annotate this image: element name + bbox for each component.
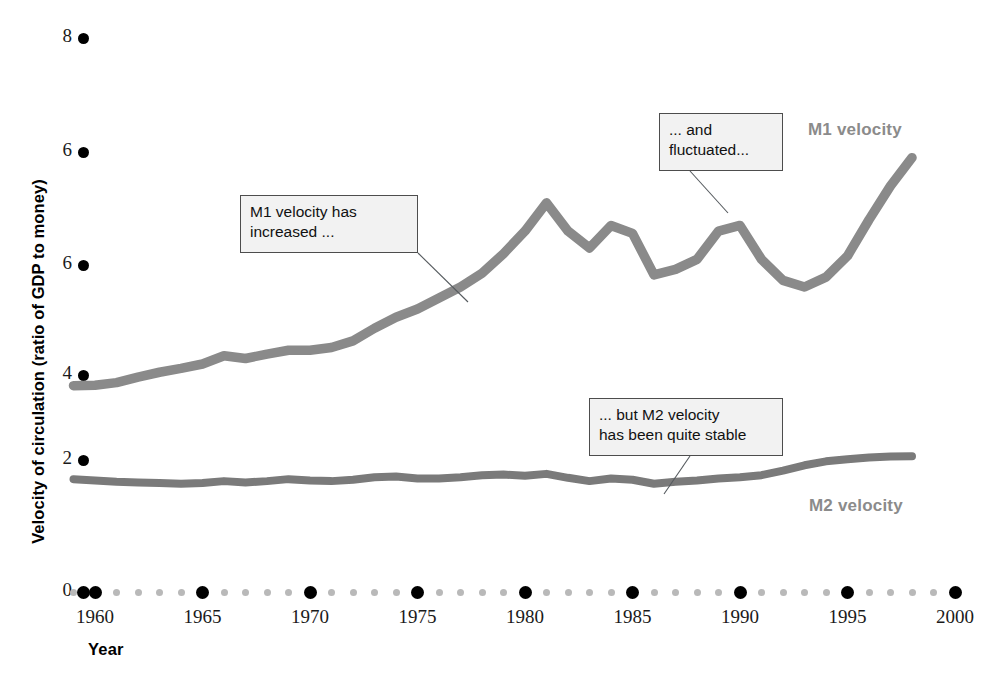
origin-dot (77, 586, 90, 599)
x-axis-title: Year (88, 640, 124, 659)
x-axis-minor-dot (823, 589, 830, 596)
x-axis-minor-dot (479, 589, 486, 596)
series-group (74, 158, 913, 484)
x-axis-minor-dot (350, 589, 357, 596)
x-axis-major-dot (411, 586, 424, 599)
x-axis-major-dot (196, 586, 209, 599)
x-axis-minor-dot (586, 589, 593, 596)
plot-area (0, 0, 991, 684)
x-axis-minor-dot (694, 589, 701, 596)
x-axis-major-dot (841, 586, 854, 599)
leader-line-m2-stable (664, 456, 690, 494)
series-line-m1-velocity (74, 158, 913, 386)
x-tick-label: 2000 (920, 606, 990, 628)
x-axis-minor-dot (543, 589, 550, 596)
x-axis-minor-dot (221, 589, 228, 596)
x-axis-minor-dot (715, 589, 722, 596)
leader-line-m1-fluctuated (690, 171, 728, 213)
x-tick-label: 1970 (275, 606, 345, 628)
x-axis-minor-dot (672, 589, 679, 596)
x-axis-major-dot (949, 586, 962, 599)
x-axis-minor-dot (156, 589, 163, 596)
x-axis-major-dot (304, 586, 317, 599)
series-line-m2-velocity (74, 456, 913, 484)
x-axis-major-dot (519, 586, 532, 599)
x-axis-minor-dot (436, 589, 443, 596)
x-axis-minor-dot (242, 589, 249, 596)
x-axis-minor-dot (371, 589, 378, 596)
x-axis-minor-dot (393, 589, 400, 596)
chart-figure: Velocity of circulation (ratio of GDP to… (0, 0, 991, 684)
x-axis-minor-dot (780, 589, 787, 596)
x-axis-minor-dot (801, 589, 808, 596)
x-axis-minor-dot (457, 589, 464, 596)
x-tick-label: 1965 (168, 606, 238, 628)
x-axis-minor-dot (909, 589, 916, 596)
series-label-m2-velocity: M2 velocity (809, 496, 903, 516)
x-axis-minor-dot (930, 589, 937, 596)
x-tick-label: 1960 (60, 606, 130, 628)
x-tick-label: 1980 (490, 606, 560, 628)
x-axis-minor-dot (178, 589, 185, 596)
series-label-m1-velocity: M1 velocity (808, 120, 902, 140)
x-axis-minor-dot (651, 589, 658, 596)
x-tick-label: 1995 (813, 606, 883, 628)
x-tick-label: 1975 (383, 606, 453, 628)
x-axis-minor-dot (500, 589, 507, 596)
callout-m2-stable: ... but M2 velocity has been quite stabl… (589, 398, 783, 456)
x-axis-minor-dot (70, 589, 77, 596)
x-tick-label: 1990 (705, 606, 775, 628)
x-axis-minor-dot (866, 589, 873, 596)
x-axis-major-dot (626, 586, 639, 599)
x-axis-minor-dot (135, 589, 142, 596)
x-axis-minor-dot (285, 589, 292, 596)
x-axis-major-dot (89, 586, 102, 599)
x-axis-major-dot (734, 586, 747, 599)
x-axis-minor-dot (608, 589, 615, 596)
x-axis-minor-dot (328, 589, 335, 596)
x-axis-minor-dot (887, 589, 894, 596)
callout-m1-fluctuated: ... and fluctuated... (659, 113, 783, 171)
x-tick-label: 1985 (598, 606, 668, 628)
x-axis-minor-dot (565, 589, 572, 596)
x-axis-minor-dot (758, 589, 765, 596)
x-axis-minor-dot (113, 589, 120, 596)
callout-m1-increase: M1 velocity has increased ... (240, 195, 418, 253)
x-axis-minor-dot (264, 589, 271, 596)
